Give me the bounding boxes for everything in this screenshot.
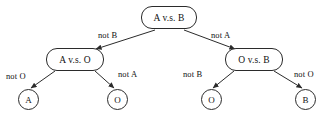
leaf-node-o-left[interactable]: O — [107, 89, 128, 110]
edge-label-leftmid-leafa: not O — [6, 71, 26, 81]
edge-label-root-right-text: not A — [211, 30, 230, 40]
edge-label-root-left-text: not B — [98, 30, 117, 40]
leaf-node-a[interactable]: A — [18, 89, 39, 110]
edge-label-rightmid-leafb-text: not O — [294, 69, 314, 79]
node-left-mid-label: A v.s. O — [59, 55, 90, 65]
edge-label-leftmid-leafo-text: not A — [118, 69, 137, 79]
edge-label-rightmid-leafo: not B — [183, 69, 202, 79]
decision-tree-diagram: A v.s. B A v.s. O O v.s. B A O O B not B… — [0, 0, 330, 118]
leaf-node-o-right-label: O — [208, 95, 215, 105]
edge-leftmid-leafo — [95, 71, 114, 88]
edge-label-root-left: not B — [98, 30, 117, 40]
edge-label-leftmid-leafa-text: not O — [6, 71, 26, 81]
leaf-node-o-right[interactable]: O — [201, 89, 222, 110]
node-right-mid-label: O v.s. B — [238, 55, 269, 65]
node-left-mid[interactable]: A v.s. O — [46, 48, 104, 71]
node-root[interactable]: A v.s. B — [141, 6, 197, 29]
leaf-node-b-label: B — [302, 95, 308, 105]
edge-label-rightmid-leafb: not O — [294, 69, 314, 79]
node-right-mid[interactable]: O v.s. B — [225, 48, 283, 71]
leaf-node-o-left-label: O — [114, 95, 121, 105]
edge-label-rightmid-leafo-text: not B — [183, 69, 202, 79]
edge-label-root-right: not A — [211, 30, 230, 40]
edge-leftmid-leafa — [31, 71, 55, 88]
leaf-node-a-label: A — [25, 95, 32, 105]
edge-rightmid-leafo — [213, 71, 234, 88]
node-root-label: A v.s. B — [154, 13, 185, 23]
edge-label-leftmid-leafo: not A — [118, 69, 137, 79]
leaf-node-b[interactable]: B — [295, 89, 316, 110]
